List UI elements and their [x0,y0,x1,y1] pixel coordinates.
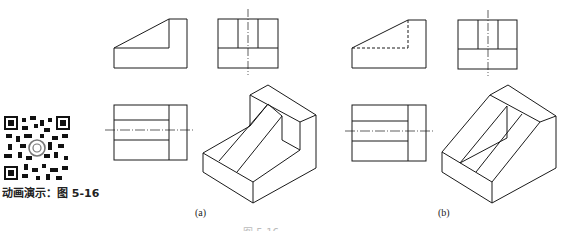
figure-a-label: (a) [195,207,206,218]
isometric-view-a [203,85,316,203]
figure-b [345,10,556,203]
front-view-a [114,19,187,68]
top-view-b [345,105,433,161]
front-view-b [352,20,426,68]
qr-code-icon[interactable] [4,116,70,180]
figure-b-label: (b) [438,207,450,218]
isometric-view-b [442,85,556,203]
figure-a [105,9,316,203]
figure-caption: 图 5-16 …… [243,224,302,231]
qr-caption: 动画演示：图 5-16 [2,184,99,200]
top-view-a [105,105,194,160]
side-view-a [218,9,278,75]
side-view-b [458,10,517,76]
